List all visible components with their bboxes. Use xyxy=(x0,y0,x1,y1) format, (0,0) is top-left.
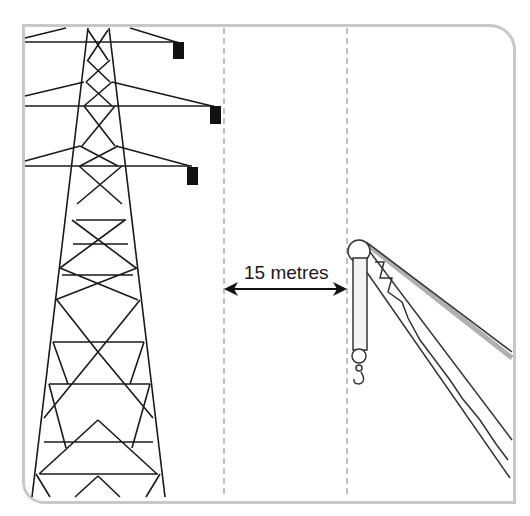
crane-icon xyxy=(348,240,512,478)
pylon-icon xyxy=(25,28,214,497)
diagram-canvas xyxy=(0,0,530,516)
distance-arrow-icon xyxy=(224,282,347,296)
distance-label: 15 metres xyxy=(244,262,328,284)
